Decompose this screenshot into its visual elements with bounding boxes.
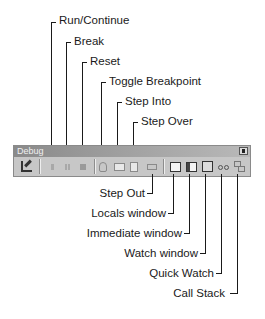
callout-watch-window: Watch window [124, 247, 198, 260]
hand-icon [99, 162, 107, 172]
callout-toggle-breakpoint: Toggle Breakpoint [109, 75, 201, 88]
step-over-icon [130, 162, 138, 172]
toolbar-title: Debug [17, 146, 44, 157]
step-over-button[interactable] [129, 160, 142, 173]
toolbar-separator [39, 159, 41, 174]
leader-step-out-v [152, 174, 153, 193]
call-stack-button[interactable] [233, 160, 246, 173]
pause-icon [65, 164, 70, 170]
callout-step-over: Step Over [141, 115, 193, 128]
callout-call-stack: Call Stack [173, 287, 225, 300]
leader-call-stack-v [237, 174, 238, 294]
quick-watch-button[interactable] [217, 160, 230, 173]
immediate-window-button[interactable] [185, 160, 198, 173]
leader-call-stack [230, 293, 238, 294]
leader-immediate [184, 233, 190, 234]
toggle-breakpoint-button[interactable] [97, 160, 110, 173]
leader-immediate-v [189, 174, 190, 234]
glasses-lens-icon [224, 165, 229, 170]
run-continue-button[interactable] [46, 160, 59, 173]
call-stack-frame-icon [238, 166, 245, 172]
callout-reset: Reset [90, 55, 120, 68]
callout-run-continue: Run/Continue [59, 14, 129, 27]
glasses-icon [218, 165, 223, 170]
callout-locals-window: Locals window [91, 207, 166, 220]
watch-window-icon [202, 161, 213, 172]
leader-watch-v [205, 174, 206, 254]
callout-quick-watch: Quick Watch [149, 267, 214, 280]
watch-window-button[interactable] [201, 160, 214, 173]
leader-quick-watch [216, 273, 222, 274]
toolbar-separator [94, 159, 96, 174]
step-into-icon [114, 163, 125, 171]
leader-locals [168, 213, 174, 214]
toolbar-separator [163, 159, 165, 174]
immediate-window-icon [186, 162, 197, 172]
step-into-button[interactable] [113, 160, 126, 173]
break-button[interactable] [61, 160, 74, 173]
locals-window-icon [170, 162, 181, 172]
stop-icon [80, 164, 86, 170]
leader-run-continue-v [51, 22, 52, 164]
leader-quick-watch-v [221, 174, 222, 274]
design-mode-button[interactable] [20, 160, 33, 173]
step-out-icon [147, 164, 157, 170]
debug-toolbar: Debug [13, 145, 251, 177]
leader-watch [200, 253, 206, 254]
step-out-button[interactable] [145, 160, 158, 173]
leader-locals-v [173, 174, 174, 214]
callout-step-out: Step Out [100, 187, 145, 200]
play-icon [51, 164, 54, 170]
reset-button[interactable] [77, 160, 90, 173]
callout-break: Break [74, 35, 104, 48]
close-button[interactable] [239, 147, 248, 155]
callout-step-into: Step Into [125, 95, 171, 108]
leader-step-out [147, 193, 153, 194]
locals-window-button[interactable] [169, 160, 182, 173]
callout-immediate-window: Immediate window [87, 227, 182, 240]
toolbar-titlebar[interactable]: Debug [14, 146, 250, 157]
